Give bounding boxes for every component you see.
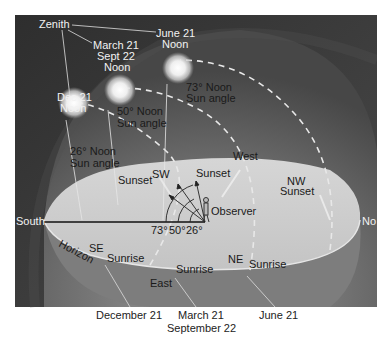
label-angle-26-2: Sun angle xyxy=(70,157,120,169)
caption-march: March 21 xyxy=(178,309,224,322)
sun-june-noon xyxy=(162,52,194,84)
label-sunset-sw: Sunset xyxy=(118,174,152,186)
label-sunset-nw: Sunset xyxy=(280,185,314,197)
label-dec-noon-2: Noon xyxy=(60,102,86,114)
label-angle-50: 50° xyxy=(169,224,186,236)
label-observer: Observer xyxy=(211,205,257,217)
label-west: West xyxy=(233,150,258,162)
label-angle-73: 73° xyxy=(151,224,168,236)
label-angle-26-1: 26° Noon xyxy=(70,145,116,157)
caption-june: June 21 xyxy=(259,309,298,322)
label-angle-73-2: Sun angle xyxy=(186,92,236,104)
label-sunrise-ne: Sunrise xyxy=(249,258,286,270)
label-sunrise-se: Sunrise xyxy=(107,252,144,264)
label-ne: NE xyxy=(228,253,243,265)
label-angle-26: 26° xyxy=(186,224,203,236)
label-angle-50-2: Sun angle xyxy=(117,117,167,129)
caption-september: September 22 xyxy=(167,322,236,335)
label-se: SE xyxy=(89,242,104,254)
sun-equinox-noon xyxy=(104,74,136,106)
label-equinox-noon-3: Noon xyxy=(104,61,130,73)
label-north: No xyxy=(362,215,376,227)
label-sunset-west: Sunset xyxy=(196,167,230,179)
label-june-noon-2: Noon xyxy=(162,38,188,50)
label-angle-50-1: 50° Noon xyxy=(117,105,163,117)
label-east: East xyxy=(150,277,172,289)
label-sw: SW xyxy=(152,168,170,180)
caption-december: December 21 xyxy=(96,309,162,322)
label-south: South xyxy=(16,215,45,227)
label-zenith: Zenith xyxy=(39,18,70,30)
label-sunrise-east: Sunrise xyxy=(176,263,213,275)
sun-path-diagram: Zenith June 21 Noon March 21 Sept 22 Noo… xyxy=(0,0,377,339)
